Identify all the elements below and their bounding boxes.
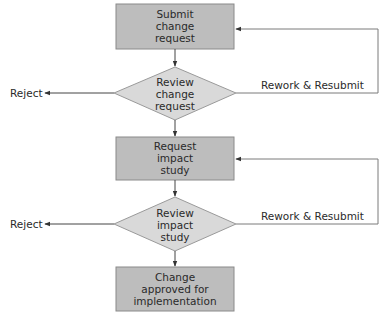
node-change-approved: Change approved for implementation (116, 267, 234, 311)
node-label-line: approved for (141, 283, 209, 295)
node-submit-change-request: Submit change request (116, 4, 234, 49)
reject-label: Reject (10, 218, 43, 230)
node-label-line: change (156, 88, 195, 100)
node-label-line: study (160, 231, 189, 243)
node-label-line: request (155, 32, 195, 44)
reject-label: Reject (10, 87, 43, 99)
rework-label: Rework & Resubmit (261, 79, 364, 91)
node-label-line: implementation (133, 295, 216, 307)
node-label-line: Submit (156, 8, 193, 20)
change-request-flowchart: Submit change request Review change requ… (0, 0, 387, 318)
node-label-line: Request (154, 140, 197, 152)
node-label-line: impact (157, 152, 193, 164)
node-label-line: Review (156, 76, 194, 88)
node-label-line: impact (157, 219, 193, 231)
node-label-line: study (160, 164, 189, 176)
node-label-line: Change (155, 271, 195, 283)
node-label-line: Review (156, 207, 194, 219)
node-request-impact-study: Request impact study (116, 137, 234, 180)
decision-review-change-request: Review change request (114, 67, 236, 120)
rework-label: Rework & Resubmit (261, 210, 364, 222)
decision-review-impact-study: Review impact study (114, 197, 236, 251)
node-label-line: change (156, 20, 195, 32)
node-label-line: request (155, 100, 195, 112)
